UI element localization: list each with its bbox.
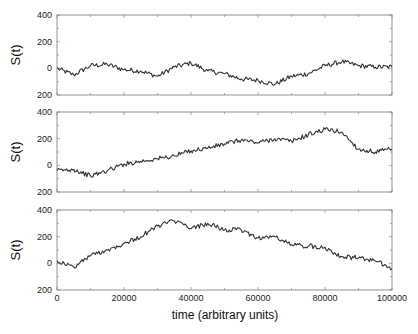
y-tick-label: 0 [47, 258, 52, 268]
figure: 4002000200S(t)4002000200S(t)400200020002… [0, 0, 418, 334]
x-tick-label: 100000 [377, 293, 407, 303]
y-axis-label: S(t) [8, 45, 23, 66]
x-tick-label: 60000 [245, 293, 270, 303]
y-tick-label: 400 [37, 107, 52, 117]
panel-2: 4002000200S(t) [8, 107, 392, 197]
x-tick-label: 80000 [312, 293, 337, 303]
y-tick-label: 200 [37, 37, 52, 47]
series-line [57, 128, 392, 178]
y-tick-label: 400 [37, 205, 52, 215]
y-tick-label: 200 [37, 285, 52, 295]
plot-frame [57, 112, 392, 192]
panel-3: 4002000200020000400006000080000100000S(t… [8, 205, 407, 303]
y-axis-label: S(t) [8, 142, 23, 163]
y-tick-label: 200 [37, 232, 52, 242]
y-axis-label: S(t) [8, 240, 23, 261]
x-tick-label: 40000 [178, 293, 203, 303]
series-line [57, 60, 392, 85]
y-tick-label: 200 [37, 90, 52, 100]
series-line [57, 220, 392, 270]
y-tick-label: 400 [37, 10, 52, 20]
y-tick-label: 200 [37, 134, 52, 144]
x-axis-label: time (arbitrary units) [172, 308, 279, 322]
panel-1: 4002000200S(t) [8, 10, 392, 100]
y-tick-label: 0 [47, 63, 52, 73]
plot-frame [57, 15, 392, 95]
x-tick-label: 0 [54, 293, 59, 303]
y-tick-label: 200 [37, 187, 52, 197]
y-tick-label: 0 [47, 160, 52, 170]
x-tick-label: 20000 [111, 293, 136, 303]
